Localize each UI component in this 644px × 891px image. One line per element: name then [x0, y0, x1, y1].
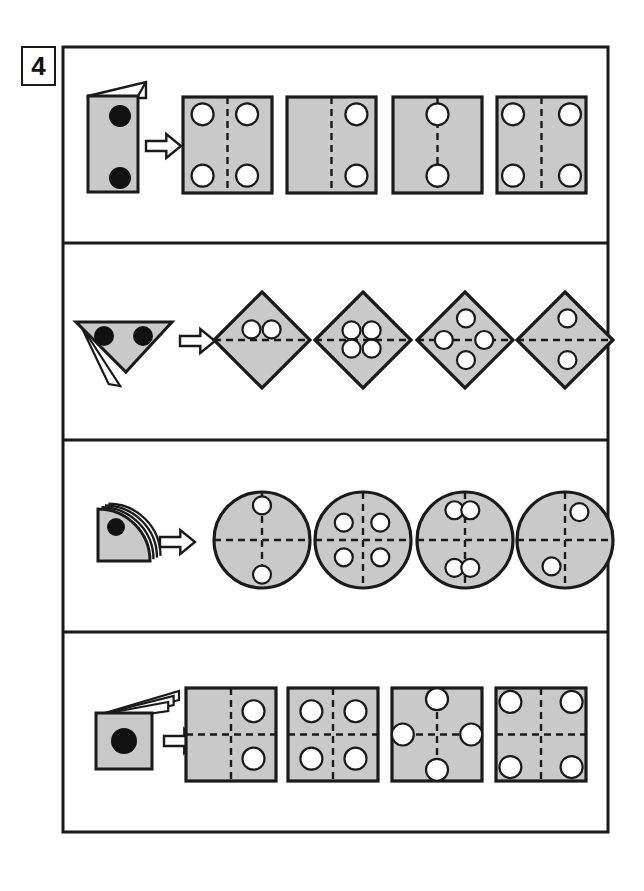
punch-dot: [94, 326, 114, 346]
option-square[interactable]: [288, 688, 378, 781]
option-circle[interactable]: [315, 492, 411, 588]
option-square[interactable]: [393, 97, 482, 193]
punched-hole: [243, 700, 265, 722]
punched-hole: [502, 165, 524, 187]
punched-hole: [570, 503, 588, 521]
punched-hole: [435, 331, 453, 349]
punched-hole: [558, 351, 576, 369]
exercise-number-label: 4: [31, 51, 46, 81]
option-circle[interactable]: [214, 492, 310, 588]
punched-hole: [427, 103, 449, 125]
folded-rectangle: [88, 82, 146, 192]
punched-hole: [263, 320, 281, 338]
option-square[interactable]: [186, 688, 276, 781]
option-circle[interactable]: [517, 492, 613, 588]
punched-hole: [335, 548, 353, 566]
punched-hole: [253, 566, 271, 584]
punched-hole: [363, 321, 381, 339]
punched-hole: [236, 103, 258, 125]
punched-hole: [559, 165, 581, 187]
punch-dot: [109, 167, 131, 189]
punched-hole: [502, 103, 524, 125]
punched-hole: [345, 165, 367, 187]
option-square[interactable]: [183, 97, 272, 193]
punched-hole: [371, 548, 389, 566]
punched-hole: [499, 756, 521, 778]
option-square[interactable]: [287, 97, 376, 193]
punched-hole: [558, 309, 576, 327]
punched-hole: [300, 700, 322, 722]
punch-dot: [111, 728, 137, 754]
punched-hole: [242, 320, 260, 338]
option-circle[interactable]: [417, 492, 513, 588]
punched-hole: [345, 700, 367, 722]
punched-hole: [243, 748, 265, 770]
punched-hole: [543, 557, 561, 575]
punched-hole: [475, 331, 493, 349]
punched-hole: [345, 103, 367, 125]
punched-hole: [427, 165, 449, 187]
punch-dot: [133, 326, 153, 346]
punched-hole: [559, 103, 581, 125]
punched-hole: [363, 340, 381, 358]
punched-hole: [457, 351, 475, 369]
punched-hole: [236, 165, 258, 187]
punched-hole: [253, 496, 271, 514]
punched-hole: [371, 514, 389, 532]
worksheet-page: 4: [0, 0, 644, 891]
punched-hole: [461, 501, 479, 519]
punch-dot: [107, 518, 125, 536]
punched-hole: [499, 691, 521, 713]
punched-hole: [192, 165, 214, 187]
punched-hole: [392, 724, 414, 746]
punched-hole: [457, 309, 475, 327]
punched-hole: [426, 759, 448, 781]
punched-hole: [342, 340, 360, 358]
option-square[interactable]: [392, 688, 482, 781]
punched-hole: [561, 756, 583, 778]
punched-hole: [342, 321, 360, 339]
punched-hole: [192, 103, 214, 125]
punched-hole: [561, 691, 583, 713]
punched-hole: [300, 748, 322, 770]
punched-hole: [345, 748, 367, 770]
option-square[interactable]: [496, 688, 586, 781]
paper-folding-puzzle: 4: [0, 0, 644, 891]
punched-hole: [335, 514, 353, 532]
option-square[interactable]: [497, 97, 586, 193]
punched-hole: [460, 724, 482, 746]
punch-dot: [109, 105, 131, 127]
punched-hole: [426, 688, 448, 710]
punched-hole: [461, 559, 479, 577]
